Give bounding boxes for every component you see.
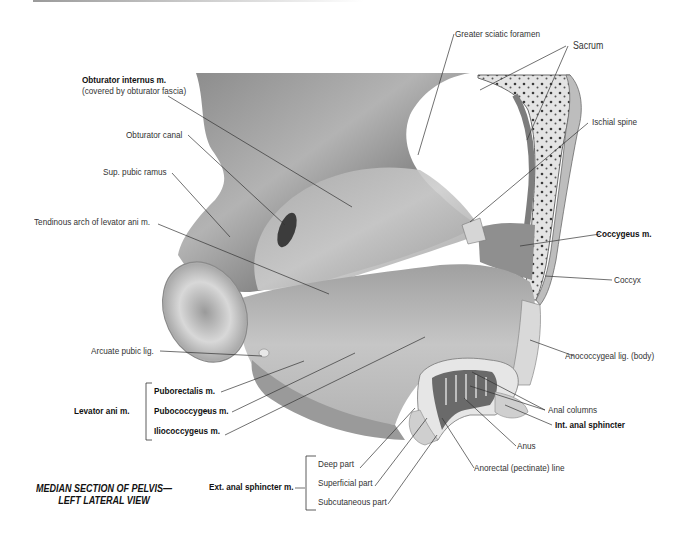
label-obturator-canal: Obturator canal [126,130,182,141]
label-ext-anal-sphincter: Ext. anal sphincter m. [209,482,294,493]
figure-title-line2: LEFT LATERAL VIEW [36,495,172,507]
label-anococcygeal-lig: Anococcygeal lig. (body) [565,351,654,362]
figure-title: MEDIAN SECTION OF PELVIS— LEFT LATERAL V… [36,483,172,507]
ext-sphincter-bracket [306,456,316,510]
label-anal-columns: Anal columns [548,405,597,416]
label-sup-pubic-ramus: Sup. pubic ramus [103,167,167,178]
label-obturator-internus: Obturator internus m. [82,75,166,86]
anal-canal-lumen [432,370,497,430]
label-deep-part: Deep part [318,459,354,470]
label-puborectalis: Puborectalis m. [154,386,215,397]
label-levator-ani: Levator ani m. [74,406,129,417]
label-tendinous-arch: Tendinous arch of levator ani m. [34,217,150,228]
label-sacrum: Sacrum [573,40,603,51]
label-anorectal-line: Anorectal (pectinate) line [474,463,565,474]
label-superficial-part: Superficial part [318,478,373,489]
label-obturator-internus-note: (covered by obturator fascia) [82,86,186,97]
label-subcutaneous-part: Subcutaneous part [318,497,387,508]
label-ischial-spine: Ischial spine [592,117,637,128]
levator-ani-bracket [146,383,152,440]
label-arcuate-pubic-lig: Arcuate pubic lig. [91,346,154,357]
label-anus: Anus [517,441,536,452]
label-greater-sciatic-foramen: Greater sciatic foramen [455,29,540,40]
label-coccyx: Coccyx [614,275,641,286]
label-iliococcygeus: Iliococcygeus m. [154,426,220,437]
label-int-anal-sphincter: Int. anal sphincter [555,420,625,431]
label-coccygeus: Coccygeus m. [596,229,651,240]
figure-title-line1: MEDIAN SECTION OF PELVIS— [36,483,172,495]
label-pubococcygeus: Pubococcygeus m. [154,406,229,417]
